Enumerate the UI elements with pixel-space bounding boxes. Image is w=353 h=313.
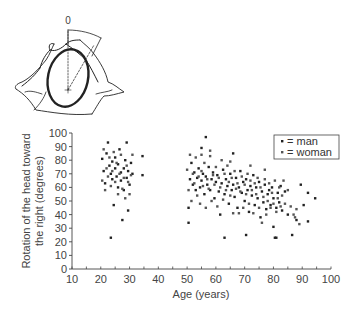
data-point-woman [282,179,284,181]
data-point-man [114,167,116,169]
data-point-man [107,141,109,143]
data-point-woman [114,181,116,183]
data-point-woman [187,189,189,191]
x-tick-label: 40 [152,273,164,285]
data-point-man [120,179,122,181]
data-point-man [248,211,250,213]
data-point-woman [192,173,194,175]
data-point-man [300,183,302,185]
data-point-man [281,209,283,211]
data-point-man [141,155,143,157]
data-point-woman [251,189,253,191]
data-point-man [262,201,264,203]
data-point-woman [215,166,217,168]
data-point-man [291,234,293,236]
data-point-man [127,209,129,211]
data-point-woman [218,177,220,179]
data-point-woman [212,174,214,176]
data-point-woman [290,205,292,207]
data-point-man [225,178,227,180]
data-point-man [231,189,233,191]
data-point-man [251,194,253,196]
data-point-man [261,190,263,192]
data-point-woman [242,207,244,209]
data-point-man [218,190,220,192]
data-point-woman [111,170,113,172]
data-point-man [236,207,238,209]
data-point-woman [223,173,225,175]
data-point-man [202,173,204,175]
data-point-man [219,213,221,215]
x-tick-label: 50 [181,273,193,285]
legend-woman-label: = woman [287,146,332,158]
data-point-woman [231,177,233,179]
data-point-woman [271,192,273,194]
y-tick-label: 100 [49,127,67,139]
data-point-woman [246,173,248,175]
data-point-man [314,197,316,199]
data-point-woman [125,164,127,166]
data-point-woman [220,159,222,161]
data-point-man [113,204,115,206]
data-point-man [266,193,268,195]
data-point-man [205,175,207,177]
x-tick-label: 90 [296,273,308,285]
data-point-woman [252,212,254,214]
y-tick-label: 20 [55,236,67,248]
data-point-woman [279,205,281,207]
data-point-man [249,185,251,187]
data-point-woman [248,203,250,205]
data-point-woman [228,181,230,183]
data-point-man [190,162,192,164]
data-point-woman [108,156,110,158]
data-point-woman [118,173,120,175]
data-point-woman [205,207,207,209]
data-point-man [200,147,202,149]
data-point-man [210,178,212,180]
data-point-woman [123,177,125,179]
y-tick-label: 10 [55,249,67,261]
data-point-woman [268,182,270,184]
data-point-woman [209,155,211,157]
data-point-woman [193,182,195,184]
data-point-man [235,177,237,179]
data-point-man [243,200,245,202]
y-axis-title-line2: the right (degrees) [33,156,45,246]
data-point-man [275,207,277,209]
data-point-man [203,193,205,195]
data-point-woman [259,186,261,188]
data-point-woman [207,188,209,190]
data-point-man [197,167,199,169]
data-point-man [258,181,260,183]
data-point-woman [229,194,231,196]
data-point-woman [264,178,266,180]
data-point-woman [128,193,130,195]
data-point-woman [255,193,257,195]
data-point-man [302,204,304,206]
data-point-woman [115,162,117,164]
legend-man-marker-icon [281,140,283,142]
data-point-woman [254,182,256,184]
data-point-man [245,178,247,180]
data-point-man [284,190,286,192]
data-point-man [239,170,241,172]
data-point-woman [105,167,107,169]
data-point-woman [266,200,268,202]
data-point-woman [131,154,133,156]
data-point-man [228,203,230,205]
data-point-man [265,208,267,210]
data-point-man [216,174,218,176]
data-point-man [232,183,234,185]
data-point-man [118,148,120,150]
data-point-man [229,173,231,175]
data-point-man [256,197,258,199]
data-point-woman [294,216,296,218]
x-tick-label: 10 [66,273,78,285]
data-point-woman [281,194,283,196]
legend-woman-marker-icon [281,151,283,153]
data-point-woman [262,196,264,198]
data-point-woman [261,222,263,224]
data-point-man [117,186,119,188]
data-point-man [238,186,240,188]
data-point-man [213,197,215,199]
